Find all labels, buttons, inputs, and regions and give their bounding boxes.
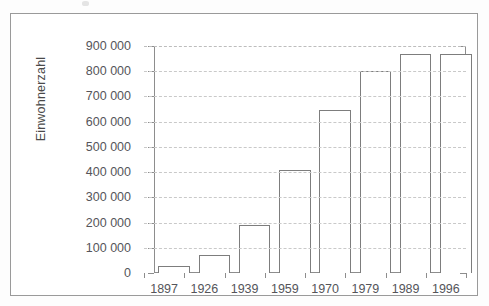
bar-1996 — [440, 54, 471, 273]
y-axis-tick-label: 100 000 — [53, 241, 131, 255]
plot-area — [134, 46, 466, 273]
x-axis-tick-label: 1926 — [190, 282, 218, 296]
y-axis-tick-label: 300 000 — [53, 190, 131, 204]
gridline — [144, 223, 466, 224]
chart-frame: Einwohnerzahl 0100 000200 000300 000400 … — [10, 13, 478, 296]
x-axis-tick-label: 1979 — [351, 282, 379, 296]
x-axis-tick-label: 1959 — [271, 282, 299, 296]
scan-artifact-speck — [82, 1, 89, 6]
bar-1959 — [279, 170, 310, 273]
x-axis-tick-mark — [426, 273, 427, 278]
y-axis-tick-label: 600 000 — [53, 115, 131, 129]
x-axis-tick-mark — [265, 273, 266, 278]
x-axis-tick-mark — [144, 273, 145, 278]
bar-1926 — [199, 255, 230, 273]
gridline — [144, 172, 466, 173]
y-axis-tick-label: 700 000 — [53, 89, 131, 103]
y-axis-tick-label: 0 — [53, 266, 131, 280]
chart-page: Einwohnerzahl 0100 000200 000300 000400 … — [0, 0, 489, 306]
x-axis-tick-label: 1897 — [150, 282, 178, 296]
y-axis-tick-label: 900 000 — [53, 39, 131, 53]
x-axis-tick-mark — [386, 273, 387, 278]
x-axis-tick-labels: 18971926193919591970197919891996 — [144, 282, 466, 304]
y-axis-tick-labels: 0100 000200 000300 000400 000500 000600 … — [53, 46, 131, 280]
x-axis-tick-mark — [345, 273, 346, 278]
gridline — [144, 71, 466, 72]
x-axis-tick-mark — [225, 273, 226, 278]
x-axis-tick-mark — [466, 273, 467, 278]
gridline — [144, 197, 466, 198]
plot-inner — [144, 46, 466, 273]
x-axis-tick-label: 1989 — [392, 282, 420, 296]
x-axis-tick-label: 1970 — [311, 282, 339, 296]
x-axis-tick-label: 1996 — [432, 282, 460, 296]
bar-series — [154, 46, 466, 273]
x-axis-tick-mark — [184, 273, 185, 278]
y-axis-tick-label: 400 000 — [53, 165, 131, 179]
y-axis-title: Einwohnerzahl — [34, 39, 48, 159]
gridline — [144, 248, 466, 249]
bar-1989 — [400, 54, 431, 273]
gridline — [144, 96, 466, 97]
gridline — [144, 147, 466, 148]
y-axis-tick-label: 800 000 — [53, 64, 131, 78]
y-axis-tick-label: 500 000 — [53, 140, 131, 154]
x-axis-tick-mark — [305, 273, 306, 278]
y-axis-tick-mark — [148, 273, 154, 274]
gridline — [144, 122, 466, 123]
gridline — [144, 46, 466, 47]
bar-1897 — [158, 266, 189, 273]
y-axis-tick-label: 200 000 — [53, 216, 131, 230]
x-axis-tick-label: 1939 — [231, 282, 259, 296]
bar-1939 — [239, 225, 270, 273]
